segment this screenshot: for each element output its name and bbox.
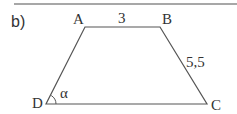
trapezoid-diagram: b) A 3 B 5,5 D α C: [0, 0, 237, 114]
angle-label-alpha: α: [60, 85, 68, 101]
vertex-label-c: C: [211, 97, 221, 113]
vertex-label-a: A: [73, 11, 84, 27]
side-label-bc: 5,5: [186, 54, 205, 70]
vertex-label-b: B: [162, 11, 172, 27]
vertex-label-d: D: [32, 95, 43, 111]
side-label-ab: 3: [118, 10, 126, 26]
part-label: b): [11, 13, 25, 30]
angle-arc-d: [51, 96, 56, 105]
trapezoid-outline: [46, 27, 207, 104]
